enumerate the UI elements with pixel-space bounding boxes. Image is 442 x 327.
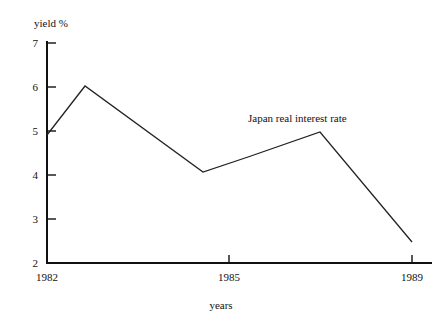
y-tick-label-5: 5	[16, 126, 38, 137]
chart-container: yield % years 7 6 5 4 3 2 1982 1985 1989…	[0, 0, 442, 327]
x-tick-label-1982: 1982	[25, 272, 69, 283]
y-axis-title: yield %	[34, 18, 68, 29]
y-tick-label-7: 7	[16, 38, 38, 49]
series-annotation-label: Japan real interest rate	[248, 113, 347, 124]
series-line-japan-real-interest-rate	[47, 86, 412, 242]
y-tick-label-4: 4	[16, 170, 38, 181]
y-tick-label-6: 6	[16, 82, 38, 93]
x-tick-label-1989: 1989	[390, 272, 434, 283]
x-axis-title: years	[199, 300, 243, 311]
y-tick-label-2: 2	[16, 258, 38, 269]
y-tick-label-3: 3	[16, 214, 38, 225]
x-tick-label-1985: 1985	[207, 272, 251, 283]
